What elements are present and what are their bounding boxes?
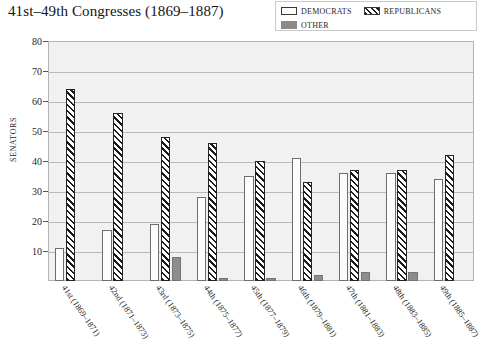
bar-republicans bbox=[161, 137, 171, 281]
y-axis-tick-label: 70 bbox=[32, 66, 42, 77]
x-axis-tick-label: 49th (1885–1887) bbox=[438, 283, 481, 339]
bar-group bbox=[237, 41, 284, 281]
bar-republicans bbox=[397, 170, 407, 281]
bar-group bbox=[379, 41, 426, 281]
bar-republicans bbox=[255, 161, 265, 281]
x-axis-tick-label: 41st (1869–1871) bbox=[59, 283, 102, 338]
bar-group bbox=[95, 41, 142, 281]
bar-democrats bbox=[197, 197, 207, 281]
bars-layer bbox=[48, 41, 474, 281]
bar-republicans bbox=[66, 89, 76, 281]
y-axis-ticks: 1020304050607080 bbox=[0, 0, 48, 322]
bar-democrats bbox=[55, 248, 65, 281]
x-axis-tick-label: 48th (1883–1885) bbox=[391, 283, 434, 339]
bar-democrats bbox=[339, 173, 349, 281]
bar-republicans bbox=[445, 155, 455, 281]
bar-group bbox=[48, 41, 95, 281]
legend-row-bottom: Other bbox=[281, 19, 471, 31]
x-axis-tick-label: 42nd (1871–1873) bbox=[107, 283, 151, 340]
x-axis-tick-label: 43rd (1873–1875) bbox=[154, 283, 198, 339]
legend-swatch-democrats-icon bbox=[281, 7, 297, 15]
legend-swatch-other-icon bbox=[281, 21, 297, 29]
bar-group bbox=[332, 41, 379, 281]
bar-democrats bbox=[102, 230, 112, 281]
bar-other bbox=[408, 272, 418, 281]
legend-label-democrats: Democrats bbox=[301, 7, 352, 16]
y-axis-tick-label: 40 bbox=[32, 156, 42, 167]
y-axis-tick-label: 10 bbox=[32, 246, 42, 257]
bar-democrats bbox=[386, 173, 396, 281]
x-axis-tick-label: 47th (1881–1883) bbox=[343, 283, 386, 339]
bar-other bbox=[172, 257, 182, 281]
y-axis-tick-label: 30 bbox=[32, 186, 42, 197]
bar-republicans bbox=[208, 143, 218, 281]
bar-other bbox=[266, 278, 276, 281]
legend-swatch-republicans-icon bbox=[364, 7, 380, 15]
bar-republicans bbox=[350, 170, 360, 281]
y-axis-tick-label: 60 bbox=[32, 96, 42, 107]
x-axis-tick-label: 46th (1879–1881) bbox=[296, 283, 339, 339]
legend-item-democrats: Democrats bbox=[281, 7, 352, 16]
y-axis-tick-label: 80 bbox=[32, 36, 42, 47]
x-axis-tick-label: 44th (1875–1877) bbox=[201, 283, 244, 339]
bar-democrats bbox=[434, 179, 444, 281]
chart-legend: Democrats Republicans Other bbox=[275, 1, 477, 31]
bar-democrats bbox=[292, 158, 302, 281]
bar-republicans bbox=[303, 182, 313, 281]
chart-root: 41st–49th Congresses (1869–1887) Democra… bbox=[0, 0, 484, 355]
bar-other bbox=[314, 275, 324, 281]
bar-other bbox=[219, 278, 229, 281]
x-axis-tick-label: 45th (1877–1879) bbox=[249, 283, 292, 339]
bar-group bbox=[190, 41, 237, 281]
legend-row-top: Democrats Republicans bbox=[281, 5, 471, 17]
legend-item-republicans: Republicans bbox=[364, 7, 441, 16]
bar-republicans bbox=[113, 113, 123, 281]
legend-label-other: Other bbox=[301, 21, 329, 30]
x-axis-labels: 41st (1869–1871)42nd (1871–1873)43rd (18… bbox=[48, 283, 474, 355]
bar-other bbox=[361, 272, 371, 281]
legend-item-other: Other bbox=[281, 21, 329, 30]
bar-group bbox=[143, 41, 190, 281]
bar-democrats bbox=[150, 224, 160, 281]
bar-group bbox=[427, 41, 474, 281]
y-axis-tick-label: 50 bbox=[32, 126, 42, 137]
y-axis-tick-label: 20 bbox=[32, 216, 42, 227]
bar-democrats bbox=[244, 176, 254, 281]
legend-label-republicans: Republicans bbox=[384, 7, 441, 16]
bar-group bbox=[285, 41, 332, 281]
